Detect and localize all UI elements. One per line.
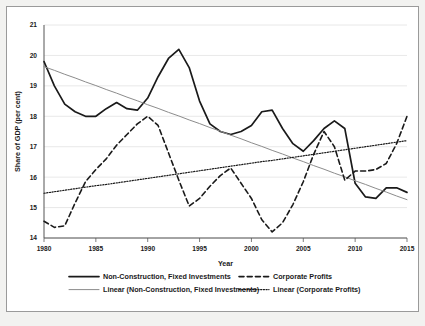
- x-tick-label: 1980: [37, 245, 52, 252]
- y-tick-label: 14: [30, 234, 38, 241]
- axis-lines: [44, 25, 407, 238]
- legend-label-0: Non-Construction, Fixed Investments: [103, 272, 231, 281]
- legend-label-2: Linear (Non-Construction, Fixed Investme…: [103, 285, 260, 294]
- y-tick-label: 17: [30, 143, 38, 150]
- x-axis-title: Year: [218, 259, 233, 268]
- x-tick-label: 2015: [400, 245, 415, 252]
- y-tick-label: 18: [30, 113, 38, 120]
- figure-container: 1415161718192021 19801985199019952000200…: [0, 0, 425, 326]
- chart-frame: 1415161718192021 19801985199019952000200…: [6, 6, 419, 312]
- chart-legend: Non-Construction, Fixed InvestmentsCorpo…: [69, 272, 361, 294]
- axis-titles: YearShare of GDP (per cent): [13, 90, 233, 268]
- x-tick-label: 2010: [348, 245, 363, 252]
- chart-plot[interactable]: 1415161718192021 19801985199019952000200…: [7, 7, 418, 311]
- series-line-0: [44, 49, 407, 198]
- x-tick-label: 1995: [192, 245, 207, 252]
- y-axis-ticks: 1415161718192021: [30, 21, 38, 241]
- x-axis-ticks: 19801985199019952000200520102015: [37, 238, 415, 252]
- y-tick-label: 16: [30, 174, 38, 181]
- legend-label-3: Linear (Corporate Profits): [273, 285, 361, 294]
- data-series-group: [44, 49, 407, 232]
- gridlines: [44, 25, 407, 238]
- y-tick-label: 15: [30, 204, 38, 211]
- series-line-1: [44, 67, 407, 200]
- y-tick-label: 19: [30, 82, 38, 89]
- x-tick-label: 1985: [89, 245, 104, 252]
- x-tick-label: 2000: [244, 245, 259, 252]
- y-axis-title: Share of GDP (per cent): [13, 90, 22, 172]
- x-tick-label: 1990: [140, 245, 155, 252]
- x-tick-label: 2005: [296, 245, 311, 252]
- y-tick-label: 21: [30, 21, 38, 28]
- y-tick-label: 20: [30, 52, 38, 59]
- legend-label-1: Corporate Profits: [273, 272, 332, 281]
